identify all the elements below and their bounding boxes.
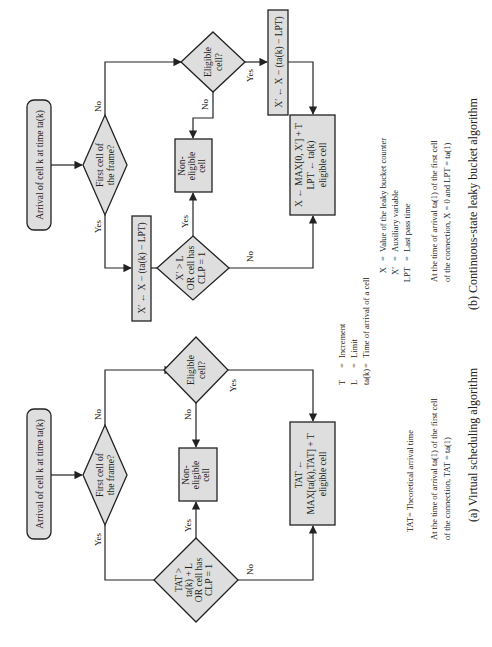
a-label-no-2: No <box>183 409 193 420</box>
b-legend-desc-LPT: Last pass time <box>402 203 412 252</box>
b-label-yes-1: Yes <box>93 219 103 233</box>
b-update-text-3: eligible cell <box>318 142 328 187</box>
a-non-eligible-text-1: Non- <box>181 465 191 485</box>
a-first-cell-diamond <box>83 425 127 525</box>
a-non-eligible-text-2: eligible <box>191 461 201 490</box>
panel-a-virtual-scheduling: Arrival of cell k at time ta(k) First ce… <box>27 337 480 622</box>
b-legend-sym-LPT: LPT <box>402 266 412 282</box>
a-update-text-1: TAT ← <box>294 460 304 488</box>
a-legend-tat: TAT= Theoretical arrival time <box>405 430 415 532</box>
a-eligible-text-1: Eligible <box>186 355 196 385</box>
b-non-eligible-text-2: eligible <box>187 152 197 181</box>
a-update-text-2: MAX[ta(k),TAT] + T <box>306 433 317 514</box>
b-legend-desc-Xprime: Auxiliary variable <box>390 190 400 252</box>
b-condition-text-2: OR cell has <box>186 246 196 291</box>
b-non-eligible-text-3: cell <box>197 159 207 173</box>
a-init-text-2: of the connection, TAT = ta(1) <box>442 437 452 540</box>
legend-eq-ta: = <box>361 363 371 368</box>
a-eligible-text-2: cell? <box>197 361 207 379</box>
b-first-cell-text-1: First cell of <box>95 142 105 187</box>
panel-b-leaky-bucket: Arrival of cell k at time ta(k) First ce… <box>27 10 480 321</box>
b-caption: (b) Continuous-state leaky bucket algori… <box>466 97 480 310</box>
b-eligible-text-2: cell? <box>214 53 224 71</box>
a-eligible-diamond <box>164 337 228 403</box>
a-update-text-3: eligible cell <box>318 451 328 496</box>
b-label-yes-2: Yes <box>245 68 255 82</box>
b-label-no-1: No <box>93 101 103 112</box>
a-label-yes-3: Yes <box>183 518 193 532</box>
legend-sym-ta: ta(k) <box>361 369 371 385</box>
b-start-text: Arrival of cell k at time ta(k) <box>35 110 46 220</box>
b-first-cell-text-2: the frame? <box>106 145 116 185</box>
b-update-text-2: LPT ← ta(k) <box>306 141 317 190</box>
a-label-no-3: No <box>245 564 255 575</box>
b-label-no-2: No <box>200 99 210 110</box>
a-condition-text-1: TAT > <box>174 568 184 592</box>
b-legend-sym-Xprime: X′ <box>390 267 400 275</box>
b-label-no-3: No <box>245 251 255 262</box>
b-aux-left-text: X′ ← X − (ta(k) − LPT) <box>137 222 148 313</box>
a-first-cell-text-1: First cell of <box>95 452 105 497</box>
a-condition-text-3: OR cell has <box>194 558 204 603</box>
a-label-yes-2: Yes <box>228 378 238 392</box>
legend-eq-T: = <box>337 363 347 368</box>
b-legend-eq-LPT: = <box>402 256 412 261</box>
b-non-eligible-text-1: Non- <box>177 156 187 176</box>
legend-desc-ta: Time of arrival of a cell <box>361 277 371 358</box>
a-label-no-1: No <box>93 409 103 420</box>
a-init-text-1: At the time of arrival ta(1) of the firs… <box>429 398 439 540</box>
b-aux-right-text: X′ ← X − (ta(k) − LPT) <box>274 16 285 107</box>
a-caption: (a) Virtual scheduling algorithm <box>466 367 480 522</box>
legend-desc-T: Increment <box>337 323 347 358</box>
b-eligible-diamond <box>181 32 245 92</box>
a-label-yes-1: Yes <box>93 532 103 546</box>
a-condition-text-4: CLP = 1 <box>204 564 214 596</box>
b-init-text-1: At the time of arrival ta(1) of the firs… <box>429 140 439 282</box>
b-legend-desc-X: Value of the leaky bucket counter <box>378 138 388 252</box>
b-label-yes-3: Yes <box>180 214 190 228</box>
a-first-cell-text-2: the frame? <box>106 455 116 495</box>
b-first-cell-diamond <box>83 115 127 215</box>
b-condition-text-1: X′ > L <box>175 255 185 280</box>
b-update-text-1: X ← MAX[0, X′] + T <box>294 123 304 207</box>
b-legend-eq-X: = <box>378 256 388 261</box>
a-non-eligible-text-3: cell <box>201 468 211 482</box>
legend-eq-L: = <box>349 363 359 368</box>
b-eligible-text-1: Eligible <box>203 47 213 77</box>
shared-legend: T = Increment L = Limit ta(k) = Time of … <box>337 277 371 385</box>
legend-desc-L: Limit <box>349 338 359 358</box>
b-legend-sym-X: X <box>378 267 388 273</box>
b-condition-text-3: CLP = 1 <box>197 252 207 284</box>
legend-sym-L: L <box>349 380 359 385</box>
a-start-text: Arrival of cell k at time ta(k) <box>35 419 46 529</box>
b-legend-eq-Xprime: = <box>390 256 400 261</box>
legend-sym-T: T <box>337 379 347 385</box>
b-init-text-2: of the connection, X = 0 and LPT = ta(1) <box>442 143 452 282</box>
